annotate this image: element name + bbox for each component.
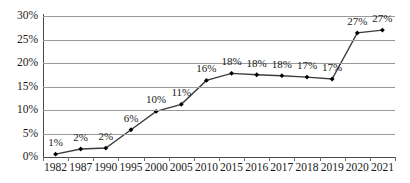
- x-tick-label: 2000: [145, 162, 168, 174]
- x-tick-label: 2018: [296, 162, 319, 174]
- x-tick-mark: [294, 157, 295, 161]
- y-tick-label: 15%: [0, 81, 38, 93]
- series-polyline: [56, 30, 383, 154]
- x-tick-mark: [118, 157, 119, 161]
- x-tick-mark: [370, 157, 371, 161]
- x-tick-label: 2010: [195, 162, 218, 174]
- x-tick-mark: [93, 157, 94, 161]
- data-point-marker: [229, 71, 234, 76]
- data-point-marker: [53, 152, 58, 157]
- line-chart: 0%5%10%15%20%25%30% 19821987199019952000…: [0, 0, 410, 183]
- x-tick-label: 2020: [346, 162, 369, 174]
- x-tick-mark: [269, 157, 270, 161]
- x-tick-label: 2019: [321, 162, 344, 174]
- data-point-marker: [305, 75, 310, 80]
- x-tick-mark: [345, 157, 346, 161]
- x-tick-mark: [244, 157, 245, 161]
- x-tick-label: 1995: [120, 162, 143, 174]
- x-tick-mark: [320, 157, 321, 161]
- y-tick-label: 20%: [0, 57, 38, 69]
- y-tick-label: 25%: [0, 34, 38, 46]
- gridline-5%: [43, 134, 395, 135]
- x-tick-label: 2021: [371, 162, 394, 174]
- data-point-marker: [78, 147, 83, 152]
- x-tick-label: 1987: [69, 162, 92, 174]
- data-point-marker: [279, 73, 284, 78]
- y-tick-label: 30%: [0, 10, 38, 22]
- x-axis-labels: 1982198719901995200020052010201520162017…: [0, 162, 410, 180]
- x-tick-label: 2016: [245, 162, 268, 174]
- x-tick-label: 2015: [220, 162, 243, 174]
- y-tick-label: 5%: [0, 128, 38, 140]
- gridline-15%: [43, 87, 395, 88]
- x-tick-mark: [395, 157, 396, 161]
- x-tick-label: 1990: [94, 162, 117, 174]
- x-tick-mark: [169, 157, 170, 161]
- data-point-marker: [380, 28, 385, 33]
- gridline-30%: [43, 16, 395, 17]
- gridline-10%: [43, 110, 395, 111]
- x-tick-label: 2017: [270, 162, 293, 174]
- x-tick-mark: [219, 157, 220, 161]
- gridline-20%: [43, 63, 395, 64]
- x-tick-label: 1982: [44, 162, 67, 174]
- y-tick-label: 0%: [0, 151, 38, 163]
- x-tick-mark: [43, 157, 44, 161]
- gridline-25%: [43, 40, 395, 41]
- x-tick-mark: [194, 157, 195, 161]
- x-tick-mark: [144, 157, 145, 161]
- x-tick-mark: [68, 157, 69, 161]
- x-tick-label: 2005: [170, 162, 193, 174]
- y-tick-label: 10%: [0, 104, 38, 116]
- data-point-marker: [254, 72, 259, 77]
